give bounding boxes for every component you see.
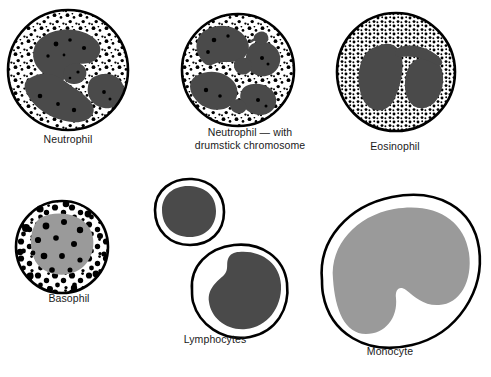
label-drumstick-line2: drumstick chromosome [195,139,306,151]
white-blood-cells-figure: Neutrophil Neutrophil — withdrumstick ch… [0,0,491,377]
label-lymphocytes: Lymphocytes [150,333,280,346]
label-basophil: Basophil [14,292,124,305]
label-eosinophil: Eosinophil [340,140,450,153]
basophil-nucleus-group [31,214,94,275]
cell-eosinophil [337,13,455,131]
label-neutrophil-drumstick: Neutrophil — withdrumstick chromosome [170,126,330,152]
cells-illustration [0,0,491,377]
cell-lymphocytes [155,179,287,338]
label-neutrophil: Neutrophil [8,133,128,146]
cell-basophil [16,201,108,293]
cell-monocyte [322,195,480,348]
lymphocyte-small [155,179,224,245]
cell-neutrophil [8,10,128,130]
lymphocyte-small-nucleus [162,186,216,237]
lymphocyte-large [192,245,288,338]
cell-neutrophil-drumstick [182,14,294,126]
label-drumstick-line1: Neutrophil — with [208,126,293,138]
label-monocyte: Monocyte [330,345,450,358]
